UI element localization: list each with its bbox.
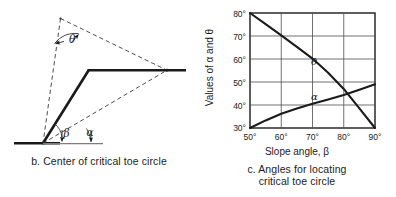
ytick-50: 50°: [233, 78, 246, 88]
theta-label: θ: [69, 33, 76, 45]
angles-chart: θ α 80° 70° 60° 50° 40° 30° 50° 60° 70° …: [198, 0, 396, 145]
xtick-50: 50°: [244, 132, 257, 142]
xtick-80: 80°: [337, 132, 350, 142]
panel-center-of-critical-toe-circle: θ β α b. Center of critical toe circle: [0, 0, 198, 197]
caption-panel-c: c. Angles for locating critical toe circ…: [198, 163, 396, 187]
dashed-radius-to-toe: [43, 19, 61, 144]
curve-label-alpha: α: [311, 91, 318, 102]
curve-label-theta: θ: [311, 56, 317, 67]
beta-label: β: [63, 127, 70, 139]
ytick-80: 80°: [233, 9, 246, 19]
ytick-70: 70°: [233, 32, 246, 42]
xtick-60: 60°: [275, 132, 288, 142]
figure-pair: θ β α b. Center of critical toe circle θ: [0, 0, 396, 197]
caption-panel-b: b. Center of critical toe circle: [0, 155, 198, 167]
xtick-70: 70°: [306, 132, 319, 142]
x-axis-title: Slope angle, β: [198, 146, 396, 157]
xtick-90: 90°: [369, 132, 382, 142]
ytick-60: 60°: [233, 55, 246, 65]
panel-angles-chart: θ α 80° 70° 60° 50° 40° 30° 50° 60° 70° …: [198, 0, 396, 197]
circle-center-point: [59, 17, 61, 19]
dashed-radius-to-crest: [61, 19, 168, 71]
crest-point: [166, 69, 169, 72]
toe-circle-diagram: θ β α: [0, 0, 198, 155]
alpha-label: α: [87, 126, 94, 138]
y-axis-title: Values of α and θ: [204, 3, 215, 133]
ytick-40: 40°: [233, 101, 246, 111]
